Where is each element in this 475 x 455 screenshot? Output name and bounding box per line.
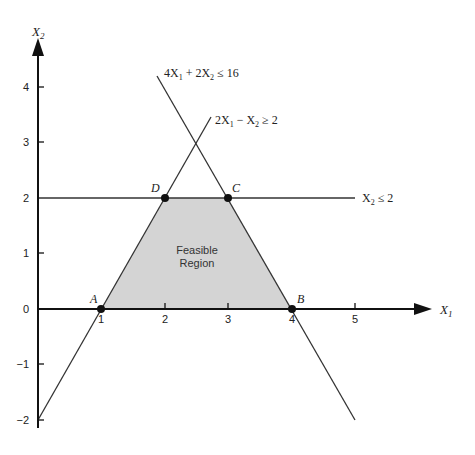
constraint-label-2x1-x2: 2X1 − X2 ≥ 2 (215, 113, 278, 129)
constraint-label-x2-le-2: X2 ≤ 2 (362, 191, 393, 207)
x-axis-label: X1 (439, 302, 452, 319)
x-tick-2: 2 (162, 313, 168, 325)
vertex-d-marker (161, 194, 169, 202)
y-tick-4: 4 (23, 81, 29, 93)
vertex-b-label: B (297, 292, 305, 306)
lp-graph: 4 3 2 1 0 −1 −2 1 2 3 4 5 X2 X1 4X1 + 2X… (0, 0, 475, 455)
graph-canvas: 4 3 2 1 0 −1 −2 1 2 3 4 5 X2 X1 4X1 + 2X… (0, 0, 475, 455)
x-tick-3: 3 (225, 313, 231, 325)
y-tick-m1: −1 (16, 358, 29, 370)
constraint-label-4x1-2x2: 4X1 + 2X2 ≤ 16 (164, 66, 239, 82)
vertex-b-marker (288, 305, 296, 313)
x-tick-1: 1 (98, 313, 104, 325)
vertex-d-label: D (150, 181, 160, 195)
feasible-region-label-line1: Feasible (176, 244, 218, 256)
x-tick-5: 5 (352, 313, 358, 325)
y-axis-label: X2 (31, 24, 45, 41)
vertex-c-label: C (232, 181, 241, 195)
y-tick-1: 1 (23, 247, 29, 259)
feasible-region-label-line2: Region (180, 257, 215, 269)
vertex-a-marker (97, 305, 105, 313)
x-tick-4: 4 (289, 313, 295, 325)
y-tick-m2: −2 (16, 414, 29, 426)
y-tick-3: 3 (23, 136, 29, 148)
x-axis-arrow-icon (414, 303, 432, 315)
vertex-a-label: A (89, 292, 98, 306)
y-tick-2: 2 (23, 192, 29, 204)
vertex-c-marker (224, 194, 232, 202)
y-tick-0: 0 (23, 303, 29, 315)
